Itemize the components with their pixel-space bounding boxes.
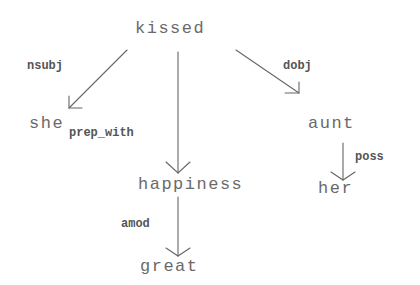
edge-label-prep-with: prep_with [69, 127, 134, 139]
edge-nsubj-arrow [69, 50, 127, 108]
edge-label-nsubj: nsubj [27, 60, 63, 72]
node-aunt: aunt [308, 115, 355, 132]
edge-label-poss: poss [355, 151, 384, 163]
node-happiness: happiness [138, 176, 243, 193]
edge-amod-arrow [166, 197, 190, 256]
dependency-tree-diagram: kissed she aunt happiness her great nsub… [0, 0, 420, 285]
node-her: her [318, 180, 353, 197]
edge-prep-with-arrow [166, 52, 190, 173]
edge-lines [0, 0, 420, 285]
node-kissed: kissed [135, 20, 205, 37]
node-she: she [29, 115, 64, 132]
edge-poss-arrow [331, 143, 355, 180]
node-great: great [140, 258, 199, 275]
edge-label-amod: amod [121, 218, 150, 230]
edge-label-dobj: dobj [283, 60, 312, 72]
